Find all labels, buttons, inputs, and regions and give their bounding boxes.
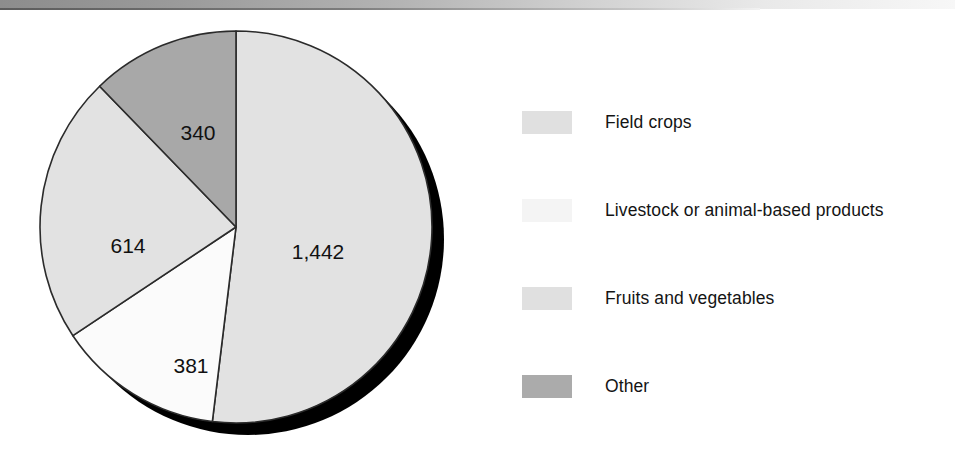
legend-label: Field crops [605, 112, 692, 133]
legend-swatch [522, 287, 572, 310]
pie-slice-value-label: 614 [110, 234, 145, 257]
chart-legend: Field cropsLivestock or animal-based pro… [522, 78, 942, 430]
legend-item[interactable]: Field crops [522, 78, 942, 166]
legend-swatch [522, 111, 572, 134]
legend-label: Fruits and vegetables [605, 288, 774, 309]
pie-slice-value-label: 1,442 [292, 240, 345, 263]
pie-chart-svg: 1,442381614340 [28, 20, 458, 449]
legend-item[interactable]: Other [522, 342, 942, 430]
pie-slices [40, 31, 432, 423]
legend-swatch [522, 199, 572, 222]
chart-page: 1,442381614340 Field cropsLivestock or a… [0, 0, 955, 449]
pie-slice-value-label: 381 [173, 354, 208, 377]
scan-edge-rule [0, 8, 760, 10]
legend-label: Livestock or animal-based products [605, 200, 884, 221]
legend-swatch [522, 375, 572, 398]
legend-item[interactable]: Fruits and vegetables [522, 254, 942, 342]
legend-item[interactable]: Livestock or animal-based products [522, 166, 942, 254]
pie-chart: 1,442381614340 [28, 20, 458, 449]
pie-slice[interactable] [212, 31, 432, 423]
legend-label: Other [605, 376, 649, 397]
pie-slice-value-label: 340 [180, 121, 215, 144]
